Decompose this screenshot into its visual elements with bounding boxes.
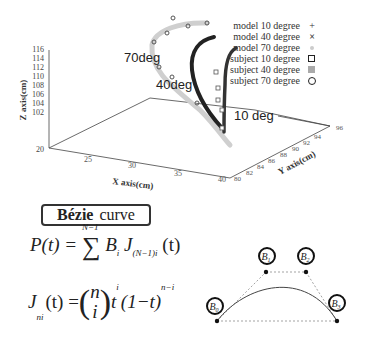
dot-marker-icon: [310, 46, 314, 50]
z-axis-ticks: 116114112 110108106 104102 20: [32, 45, 44, 154]
y-axis-ticks: 808284 868890 929496: [234, 124, 344, 183]
svg-text:90: 90: [292, 145, 300, 153]
open-square-marker-icon: [308, 55, 315, 62]
bezier-diagram: B0 B1 B2 B3: [200, 230, 366, 340]
x-axis-label: X axis(cm): [112, 176, 154, 191]
svg-text:106: 106: [32, 90, 44, 99]
svg-text:104: 104: [32, 99, 44, 108]
svg-text:80: 80: [234, 175, 242, 183]
cross-marker-icon: ×: [304, 31, 320, 42]
svg-text:108: 108: [32, 81, 44, 90]
svg-text:110: 110: [32, 72, 44, 81]
svg-text:88: 88: [280, 151, 288, 159]
legend-item-subject-10: subject 10 degree: [230, 53, 320, 64]
legend-item-subject-70: subject 70 degree: [230, 75, 320, 86]
svg-text:25: 25: [84, 155, 92, 164]
x-axis-ticks: 25303540: [84, 155, 226, 184]
legend-item-model-40: model 40 degree ×: [230, 31, 320, 42]
svg-text:112: 112: [32, 63, 44, 72]
legend-item-model-10: model 10 degree +: [230, 20, 320, 31]
plus-marker-icon: +: [304, 20, 320, 31]
svg-text:94: 94: [314, 133, 322, 141]
label-70deg: 70deg: [124, 50, 160, 65]
svg-text:86: 86: [268, 157, 276, 165]
z-axis-label: Z axis(cm): [18, 80, 28, 121]
svg-text:30: 30: [128, 161, 136, 170]
svg-text:116: 116: [32, 45, 44, 54]
label-40deg: 40deg: [156, 77, 192, 92]
svg-text:114: 114: [32, 54, 44, 63]
svg-text:92: 92: [303, 139, 311, 147]
open-circle-marker-icon: [308, 77, 316, 85]
svg-text:96: 96: [336, 124, 344, 132]
bezier-formula-j: Jni (t) = ( n i ) ti (1−t)n−i: [28, 282, 174, 322]
legend-item-model-70: model 70 degree: [230, 42, 320, 53]
svg-text:102: 102: [32, 108, 44, 117]
svg-text:40: 40: [218, 175, 226, 184]
legend-item-subject-40: subject 40 degree: [230, 64, 320, 75]
label-10deg: 10 deg: [234, 108, 274, 123]
svg-text:35: 35: [174, 169, 182, 178]
chart-legend: model 10 degree + model 40 degree × mode…: [230, 20, 320, 86]
svg-text:82: 82: [246, 169, 254, 177]
filled-square-marker-icon: [308, 66, 315, 73]
bezier-formula-p: P(t) = ∑N−1 Bi J(N−1)i (t): [30, 232, 180, 262]
svg-text:20: 20: [36, 145, 44, 154]
svg-text:84: 84: [257, 163, 265, 171]
